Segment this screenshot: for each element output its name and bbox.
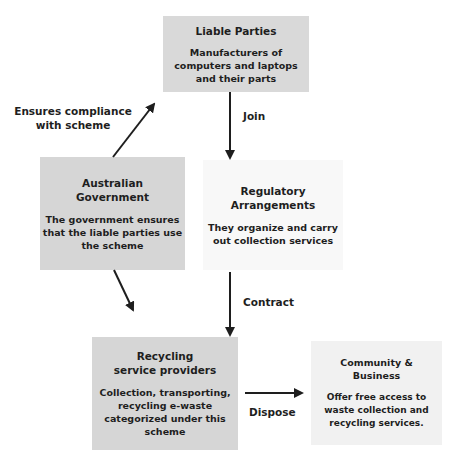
- arrows-layer: [0, 0, 461, 470]
- arrow-gov-to-liable: [113, 104, 154, 157]
- arrow-gov-to-rec: [114, 270, 133, 310]
